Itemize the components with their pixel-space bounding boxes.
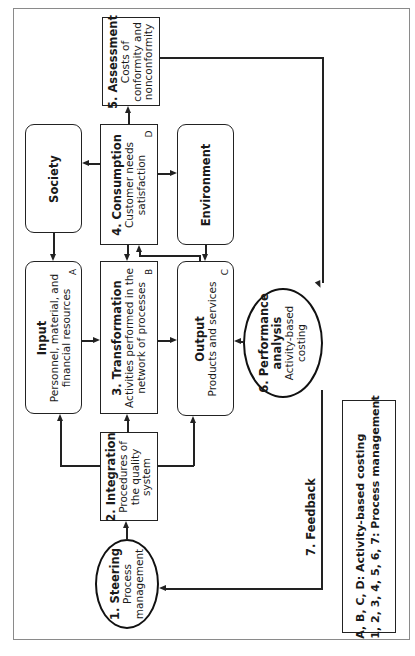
society-title: Society (47, 155, 60, 203)
integration-line: Procedures of (118, 432, 130, 521)
arrowhead-icon (136, 245, 142, 252)
input-line: Personnel, material, and (48, 273, 60, 401)
connector (322, 57, 324, 283)
legend-line-abc: A, B, C, D: Activity-based costing (354, 395, 369, 638)
transformation-line: Activities performed in the (124, 268, 136, 408)
transformation-box: B 3. Transformation Activities performed… (100, 261, 158, 414)
feedback-label: 7. Feedback (304, 478, 318, 556)
transformation-line: network of processes (135, 268, 147, 408)
connector (158, 340, 170, 342)
output-tag: C (220, 269, 230, 275)
connector (89, 163, 100, 165)
assessment-title: 5. Assessment (107, 15, 120, 109)
input-title: Input (35, 273, 48, 401)
arrowhead-icon (57, 414, 63, 421)
performance-title: 6. Performance (258, 293, 271, 392)
assessment-line: Costs of (120, 15, 132, 109)
connector (139, 255, 200, 257)
steering-title: 1. Steering (109, 548, 122, 620)
transformation-title: 3. Transformation (111, 268, 124, 408)
arrowhead-icon (82, 160, 89, 166)
connector (128, 113, 130, 124)
consumption-line: Customer needs (124, 134, 136, 236)
steering-ellipse: 1. Steering Process management (95, 539, 159, 629)
output-title: Output (193, 281, 206, 396)
consumption-box: D 4. Consumption Customer needs satisfac… (100, 124, 158, 245)
connector (158, 173, 170, 175)
legend-box: A, B, C, D: Activity-based costing 1, 2,… (342, 400, 396, 633)
output-line: Products and services (206, 281, 218, 396)
society-box: Society (25, 124, 82, 233)
arrowhead-icon (190, 416, 196, 423)
arrowhead-icon (123, 521, 129, 528)
assessment-line: nonconformity (143, 15, 155, 109)
arrowhead-icon (202, 254, 208, 261)
performance-line: costing (296, 293, 308, 392)
performance-title: analysis (271, 293, 284, 392)
input-line: financial resources (60, 273, 72, 401)
connector (127, 421, 129, 432)
legend-line-numbers: 1, 2, 3, 4, 5, 6, 7: Process management (369, 395, 384, 638)
arrowhead-icon (50, 254, 56, 261)
arrowhead-icon (124, 414, 130, 421)
connector (193, 423, 195, 466)
performance-ellipse: 6. Performance analysis Activity-based c… (243, 288, 323, 398)
steering-line: management (133, 548, 145, 620)
connector (82, 340, 93, 342)
output-box: C Output Products and services (177, 261, 234, 416)
arrowhead-icon (124, 254, 130, 261)
connector (158, 465, 194, 467)
connector (160, 57, 323, 59)
integration-title: 2. Integration (105, 432, 118, 521)
steering-line: Process (122, 548, 134, 620)
connector (127, 245, 129, 254)
assessment-box: 5. Assessment Costs of conformity and no… (102, 17, 160, 106)
integration-box: 2. Integration Procedures of the quality… (100, 432, 158, 521)
arrowhead-icon (159, 585, 166, 591)
connector (53, 233, 55, 254)
performance-line: Activity-based (284, 293, 296, 392)
connector (240, 341, 244, 343)
input-box: A Input Personnel, material, and financi… (25, 261, 82, 414)
arrowhead-icon (93, 337, 100, 343)
consumption-line: satisfaction (135, 134, 147, 236)
environment-box: Environment (177, 124, 234, 245)
connector (60, 421, 62, 466)
arrowhead-icon (170, 337, 177, 343)
arrowhead-icon (125, 106, 131, 113)
connector (126, 528, 128, 539)
connector (205, 245, 207, 254)
feedback-connector (321, 390, 323, 589)
connector (60, 465, 100, 467)
consumption-title: 4. Consumption (111, 134, 124, 236)
feedback-connector (166, 588, 323, 590)
environment-title: Environment (199, 143, 212, 226)
arrowhead-icon (170, 170, 177, 176)
connector (139, 252, 141, 256)
integration-line: system (141, 432, 153, 521)
